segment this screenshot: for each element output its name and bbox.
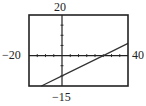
graph-window	[0, 0, 146, 106]
plotted-line	[41, 43, 128, 86]
